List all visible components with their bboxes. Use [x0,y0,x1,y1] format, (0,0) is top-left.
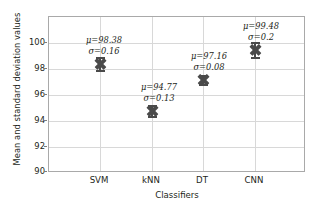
y-axis-ticks: 100 98 96 94 92 90 [0,16,45,172]
x-marker-icon [94,58,106,70]
gridline-horizontal [49,147,304,148]
y-tick-mark [44,94,47,95]
annotation-mean: μ=98.38 [59,35,149,46]
y-tick-label: 94 [1,115,45,125]
y-tick-mark [44,68,47,69]
y-tick-label: 100 [1,37,45,47]
chart-figure: Mean and standard deviation values 100 9… [0,0,322,209]
y-tick-label: 90 [1,166,45,176]
x-axis-label: Classifiers [48,190,306,200]
annotation-cnn: μ=99.48 σ=0.2 [216,21,306,42]
error-bar-cap-lower [96,70,105,72]
annotation-mean: μ=94.77 [114,82,204,93]
x-axis-ticks: SVM kNN DT CNN [48,175,305,189]
y-tick-label: 96 [1,89,45,99]
annotation-sigma: σ=0.2 [216,32,306,43]
y-tick-mark [44,120,47,121]
annotation-mean: μ=97.16 [164,51,254,62]
annotation-sigma: σ=0.16 [59,46,149,57]
annotation-svm: μ=98.38 σ=0.16 [59,35,149,56]
y-tick-label: 92 [1,141,45,151]
y-tick-mark [44,42,47,43]
annotation-sigma: σ=0.08 [164,62,254,73]
y-tick-mark [44,171,47,172]
annotation-mean: μ=99.48 [216,21,306,32]
x-marker-icon [146,105,158,117]
y-tick-label: 98 [1,63,45,73]
annotation-dt: μ=97.16 σ=0.08 [164,51,254,72]
y-tick-mark [44,146,47,147]
plot-area: μ=98.38 σ=0.16 μ=94.77 σ=0.13 μ=97.16 σ=… [48,16,305,172]
annotation-knn: μ=94.77 σ=0.13 [114,82,204,103]
gridline-horizontal [49,121,304,122]
annotation-sigma: σ=0.13 [114,93,204,104]
x-tick-label-cnn: CNN [219,175,289,185]
